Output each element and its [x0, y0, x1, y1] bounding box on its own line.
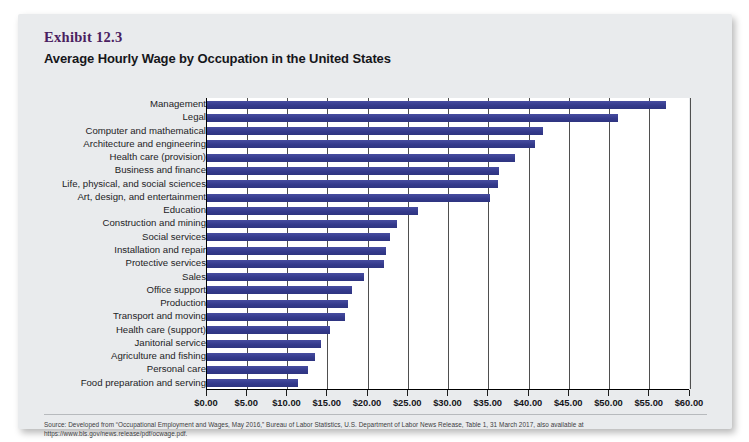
x-axis-tick-label: $30.00: [433, 397, 462, 408]
y-axis-label: Health care (support): [18, 325, 206, 335]
y-axis-label: Transport and moving: [18, 311, 206, 321]
x-axis-tick: [487, 390, 488, 396]
x-axis-tick-label: $15.00: [312, 397, 341, 408]
bar: [207, 233, 390, 241]
x-axis-tick-label: $45.00: [554, 397, 583, 408]
y-axis-label: Legal: [18, 112, 206, 122]
x-axis-tick-label: $0.00: [194, 397, 217, 408]
y-axis-label: Business and finance: [18, 165, 206, 175]
bar: [207, 207, 418, 215]
x-axis-tick-label: $20.00: [353, 397, 382, 408]
y-axis-label: Art, design, and entertainment: [18, 192, 206, 202]
x-axis-tick-label: $35.00: [473, 397, 502, 408]
x-axis-tick-labels: $0.00$5.00$10.00$15.00$20.00$25.00$30.00…: [206, 397, 689, 411]
gridline: [569, 98, 570, 389]
x-axis-tick-label: $55.00: [634, 397, 663, 408]
bar: [207, 101, 666, 109]
y-axis-label: Installation and repair: [18, 245, 206, 255]
x-axis-tick: [528, 390, 529, 396]
x-axis-tick: [689, 390, 690, 396]
bar: [207, 167, 499, 175]
x-axis-tick: [648, 390, 649, 396]
x-axis-tick: [367, 390, 368, 396]
gridline: [690, 98, 691, 389]
bar: [207, 300, 348, 308]
x-axis-tick: [326, 390, 327, 396]
x-axis-tick: [407, 390, 408, 396]
x-axis-tick-label: $25.00: [393, 397, 422, 408]
bar: [207, 260, 384, 268]
y-axis-label: Construction and mining: [18, 218, 206, 228]
y-axis-label: Food preparation and serving: [18, 378, 206, 388]
bar: [207, 273, 364, 281]
bar: [207, 180, 498, 188]
bar: [207, 379, 298, 387]
y-axis-label: Computer and mathematical: [18, 126, 206, 136]
x-axis-tick-label: $40.00: [514, 397, 543, 408]
bar: [207, 353, 315, 361]
bar: [207, 127, 543, 135]
y-axis-label: Agriculture and fishing: [18, 351, 206, 361]
y-axis-label: Life, physical, and social sciences: [18, 179, 206, 189]
exhibit-label: Exhibit 12.3: [44, 29, 123, 46]
bar: [207, 194, 490, 202]
x-axis-tick: [568, 390, 569, 396]
chart-plot-wrapper: ManagementLegalComputer and mathematical…: [18, 84, 732, 409]
y-axis-label: Health care (provision): [18, 152, 206, 162]
y-axis-label: Social services: [18, 232, 206, 242]
x-axis-tick: [286, 390, 287, 396]
bar: [207, 326, 330, 334]
exhibit-card: Exhibit 12.3 Average Hourly Wage by Occu…: [18, 14, 732, 429]
y-axis-label: Production: [18, 298, 206, 308]
gridline: [649, 98, 650, 389]
bar: [207, 313, 345, 321]
bar: [207, 114, 618, 122]
y-axis-label: Protective services: [18, 258, 206, 268]
bar: [207, 220, 397, 228]
y-axis-label: Office support: [18, 285, 206, 295]
bar: [207, 154, 515, 162]
x-axis-tick-label: $5.00: [235, 397, 258, 408]
y-axis-label: Education: [18, 205, 206, 215]
bar: [207, 286, 352, 294]
y-axis-category-labels: ManagementLegalComputer and mathematical…: [18, 98, 206, 390]
y-axis-label: Architecture and engineering: [18, 139, 206, 149]
x-axis-tick-label: $50.00: [594, 397, 623, 408]
y-axis-label: Sales: [18, 272, 206, 282]
chart-title: Average Hourly Wage by Occupation in the…: [44, 51, 391, 66]
bar: [207, 247, 386, 255]
x-axis-tick: [447, 390, 448, 396]
chart-plot-area: [206, 98, 689, 390]
source-note: Source: Developed from “Occupational Emp…: [44, 420, 716, 438]
x-axis-tick-label: $60.00: [675, 397, 704, 408]
bar: [207, 340, 321, 348]
x-axis-tick: [608, 390, 609, 396]
bar: [207, 366, 308, 374]
source-divider: [44, 414, 707, 415]
y-axis-label: Janitorial service: [18, 338, 206, 348]
x-axis-tick-label: $10.00: [272, 397, 301, 408]
y-axis-label: Management: [18, 99, 206, 109]
bar: [207, 140, 535, 148]
x-axis-tick: [246, 390, 247, 396]
x-axis-tick: [206, 390, 207, 396]
gridline: [609, 98, 610, 389]
y-axis-label: Personal care: [18, 364, 206, 374]
x-axis-ticks: [206, 390, 689, 397]
